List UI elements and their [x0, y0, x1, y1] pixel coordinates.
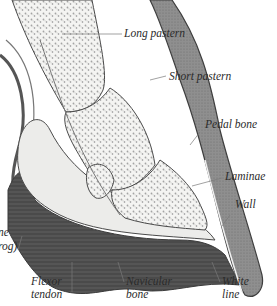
label-sole-frog-line2: rog) [0, 240, 17, 253]
label-short-pastern: Short pastern [169, 70, 231, 83]
label-pedal-bone: Pedal bone [205, 118, 257, 131]
label-flexor-tendon-line2: tendon [31, 288, 62, 301]
hoof-illustration [0, 0, 277, 306]
label-wall: Wall [235, 198, 256, 211]
label-flexor-tendon-line1: Flexor [31, 275, 62, 288]
hoof-diagram: Long pastern Short pastern Pedal bone La… [0, 0, 277, 306]
label-navicular-bone-line1: Navicular [126, 275, 172, 288]
label-white-line-line2: line [222, 288, 239, 301]
label-laminae: Laminae [225, 170, 265, 183]
long-pastern-bone [12, 0, 105, 112]
label-navicular-bone-line2: bone [126, 288, 148, 301]
label-sole-frog-line1: ne [0, 226, 9, 239]
label-white-line-line1: White [222, 275, 249, 288]
label-long-pastern: Long pastern [124, 27, 185, 40]
